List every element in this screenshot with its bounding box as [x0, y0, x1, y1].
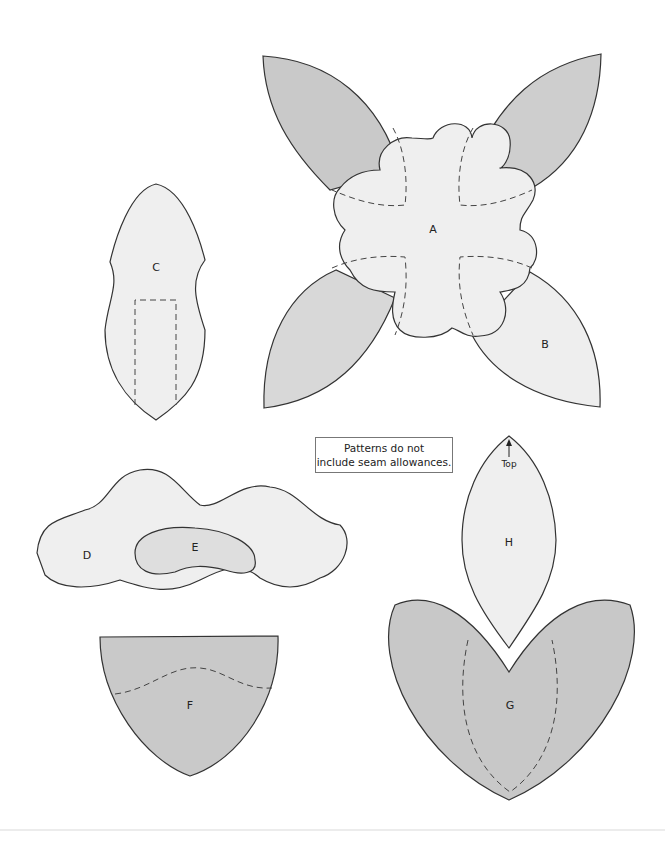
label-h: H [505, 536, 513, 549]
label-g: G [506, 699, 515, 712]
label-a: A [429, 223, 437, 236]
label-b: B [541, 338, 549, 351]
pattern-diagram: A B C D E F Top H G [0, 0, 665, 848]
label-f: F [187, 699, 193, 712]
label-e: E [192, 541, 199, 554]
piece-c-bud [105, 184, 205, 420]
seam-allowance-note: Patterns do not include seam allowances. [315, 437, 453, 473]
label-c: C [152, 261, 160, 274]
note-line-2: include seam allowances. [316, 455, 452, 469]
page-divider [0, 829, 665, 831]
note-line-1: Patterns do not [316, 441, 452, 455]
top-label: Top [500, 459, 516, 469]
label-d: D [83, 549, 91, 562]
